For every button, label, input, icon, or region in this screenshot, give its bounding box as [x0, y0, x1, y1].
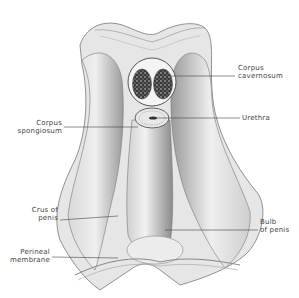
label-perineal-membrane: Perineal membrane [10, 248, 50, 264]
label-line: Crus of [32, 206, 58, 214]
label-urethra: Urethra [242, 114, 270, 122]
label-line: Urethra [242, 114, 270, 122]
left-cavernosum [133, 69, 152, 99]
label-line: Corpus [238, 64, 283, 72]
label-line: Corpus [18, 119, 62, 127]
label-corpus-spongiosum: Corpus spongiosum [18, 119, 62, 135]
label-corpus-cavernosum: Corpus cavernosum [238, 64, 283, 80]
right-cavernosum [154, 69, 173, 99]
label-bulb-of-penis: Bulb of penis [260, 218, 289, 234]
label-line: membrane [10, 256, 50, 264]
label-crus-of-penis: Crus of penis [32, 206, 58, 222]
label-line: Perineal [10, 248, 50, 256]
shaft [127, 120, 173, 253]
label-line: of penis [260, 226, 289, 234]
label-line: Bulb [260, 218, 289, 226]
label-line: spongiosum [18, 127, 62, 135]
label-line: penis [32, 214, 58, 222]
urethra-lumen [149, 116, 157, 119]
label-line: cavernosum [238, 72, 283, 80]
